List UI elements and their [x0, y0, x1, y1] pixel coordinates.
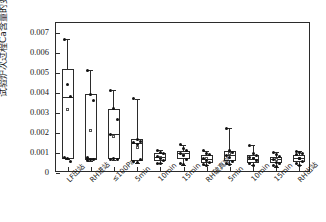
y-tick-label: 0.005 — [30, 68, 49, 77]
whisker-cap-upper — [227, 128, 232, 129]
data-point — [179, 143, 182, 146]
box-plot — [79, 23, 102, 171]
data-point — [136, 143, 139, 146]
data-point — [162, 152, 165, 155]
whisker-upper — [113, 90, 114, 109]
data-point — [205, 164, 208, 167]
data-point — [278, 162, 281, 165]
box-plot — [265, 23, 288, 171]
box-plot — [218, 23, 241, 171]
boxplot-figure: 试验炉次过程Ca含量的变化/% 00.0010.0020.0030.0040.0… — [0, 0, 326, 222]
whisker-upper — [67, 39, 68, 69]
data-point — [275, 165, 278, 168]
data-point — [116, 158, 119, 161]
whisker-cap-upper — [112, 90, 117, 91]
data-point — [86, 159, 89, 162]
data-point — [255, 159, 258, 162]
data-point — [298, 157, 301, 160]
data-point — [162, 159, 165, 162]
data-point — [208, 161, 211, 164]
data-point — [225, 127, 228, 130]
whisker-cap-upper — [135, 99, 140, 100]
mean-marker — [66, 108, 69, 111]
y-tick-label: 0.004 — [30, 88, 49, 97]
y-tick-label: 0.002 — [30, 128, 49, 137]
mean-marker — [136, 146, 139, 149]
box-plot — [102, 23, 125, 171]
y-tick-label: 0.003 — [30, 108, 49, 117]
box-plot — [288, 23, 311, 171]
data-point — [252, 164, 255, 167]
whisker-cap-upper — [88, 70, 93, 71]
data-point — [295, 153, 298, 156]
data-point — [298, 164, 301, 167]
box-plot — [241, 23, 264, 171]
y-axis-label: 试验炉次过程Ca含量的变化/% — [0, 0, 9, 97]
data-point — [182, 163, 185, 166]
data-point — [301, 160, 304, 163]
box-plot — [126, 23, 149, 171]
data-point — [301, 152, 304, 155]
data-point — [139, 140, 142, 143]
data-point — [109, 133, 112, 136]
data-point — [255, 154, 258, 157]
data-point — [69, 160, 72, 163]
data-point — [159, 162, 162, 165]
data-point — [86, 69, 89, 72]
data-point — [92, 158, 95, 161]
box-plot — [195, 23, 218, 171]
whisker-upper — [90, 70, 91, 94]
whisker-cap-upper — [251, 145, 256, 146]
data-point — [116, 118, 119, 121]
y-tick-mark — [56, 173, 60, 174]
mean-marker — [112, 135, 115, 138]
y-tick-label: 0 — [45, 168, 49, 177]
data-point — [272, 158, 275, 161]
mean-marker — [89, 129, 92, 132]
box-plot — [172, 23, 195, 171]
data-point — [248, 144, 251, 147]
data-point — [89, 93, 92, 96]
data-point — [278, 155, 281, 158]
y-tick-label: 0.007 — [30, 28, 49, 37]
data-point — [63, 38, 66, 41]
y-tick-label: 0.006 — [30, 48, 49, 57]
box-plot — [56, 23, 79, 171]
whisker-upper — [229, 128, 230, 151]
data-point — [109, 158, 112, 161]
data-point — [109, 89, 112, 92]
data-point — [139, 158, 142, 161]
data-point — [182, 154, 185, 157]
whisker-upper — [137, 99, 138, 140]
box-plot — [149, 23, 172, 171]
data-point — [185, 158, 188, 161]
plot-area — [55, 22, 310, 172]
data-point — [66, 83, 69, 86]
y-tick-label: 0.001 — [30, 148, 49, 157]
box-rect — [85, 94, 97, 159]
